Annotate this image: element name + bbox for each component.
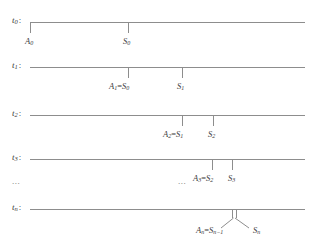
leader-line-sn xyxy=(235,218,249,228)
timeline-figure: t0: A0 S0 t1: A1=S0 S1 t2: A2=S1 S2 t3: … xyxy=(0,0,310,245)
point-label-an-eq-sn-1: An=Sn−1 xyxy=(196,226,223,235)
leader-lines-tn xyxy=(0,0,310,245)
point-label-sn: Sn xyxy=(253,226,260,235)
